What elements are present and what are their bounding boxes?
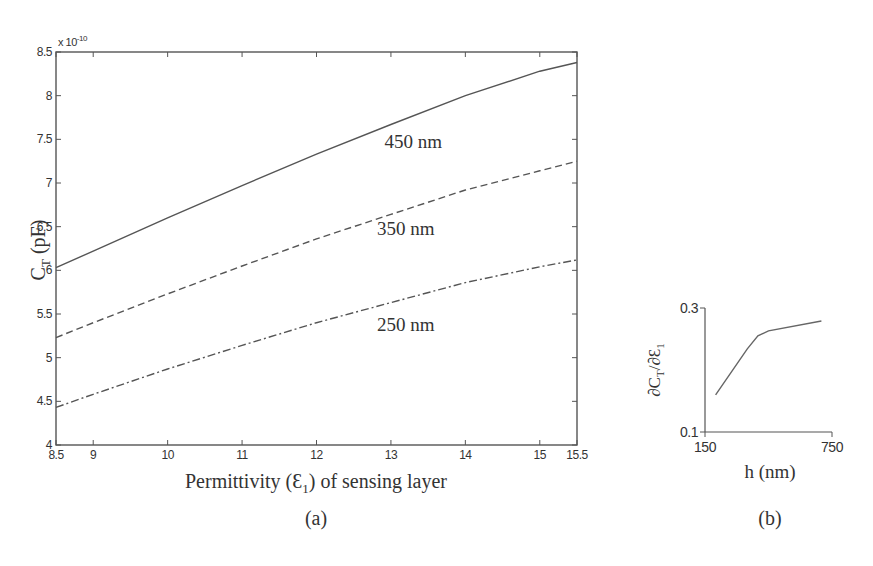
x-tick-label: 15 [534, 448, 547, 462]
y-tick-label: 0.3 [680, 300, 699, 316]
curve-label: 450 nm [384, 131, 442, 152]
x-tick-label: 15.5 [566, 448, 588, 462]
x-tick-label: 12 [310, 448, 323, 462]
x-tick-label: 13 [385, 448, 398, 462]
x-tick-label: 10 [161, 448, 174, 462]
plot-frame [56, 52, 577, 445]
x-tick-label: 750 [821, 439, 844, 455]
panel-b-xlabel: h (nm) [744, 461, 795, 483]
panel-b-series [716, 321, 822, 395]
panel-a-annotations: 450 nm350 nm250 nm [377, 131, 442, 335]
y-tick-label: 0.1 [680, 424, 699, 440]
series-line-250-nm [56, 260, 577, 408]
panel-b-ylabel: ∂CT/∂Ɛ1 [645, 343, 666, 397]
y-tick-label: 4.5 [37, 394, 53, 408]
panel-a-caption: (a) [305, 507, 327, 530]
x-tick-label: 14 [459, 448, 472, 462]
y-tick-label: 4 [46, 438, 53, 452]
panel-b-axes: 0.10.3150750 [680, 300, 844, 455]
y-tick-label: 5 [46, 351, 53, 365]
y-tick-label: 5.5 [37, 307, 53, 321]
series-line-350-nm [56, 161, 577, 337]
panel-b-caption: (b) [758, 507, 781, 530]
panel-a-xlabel: Permittivity (Ɛ1) of sensing layer [185, 470, 447, 496]
series-line-sensitivity [716, 321, 822, 395]
panel-a-axes: 8.5910111213141515.544.555.566.577.588.5 [37, 45, 589, 462]
y-tick-label: 8 [46, 89, 53, 103]
y-tick-label: 7.5 [37, 132, 53, 146]
figure: 8.5910111213141515.544.555.566.577.588.5… [0, 0, 873, 566]
x-tick-label: 150 [694, 439, 717, 455]
curve-label: 250 nm [377, 314, 435, 335]
y-tick-label: 7 [46, 176, 53, 190]
curve-label: 350 nm [377, 218, 435, 239]
panel-a-series [56, 63, 577, 408]
x-tick-label: 11 [236, 448, 248, 462]
series-line-450-nm [56, 63, 577, 268]
x-tick-label: 9 [90, 448, 97, 462]
y-tick-label: 8.5 [37, 45, 53, 59]
panel-a-multiplier: x 10-10 [58, 34, 88, 48]
